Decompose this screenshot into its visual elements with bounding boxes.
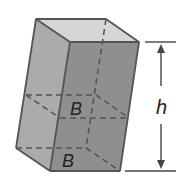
bottom-base-label: B — [62, 151, 74, 171]
arrow-down-icon — [157, 160, 165, 169]
height-label: h — [156, 96, 167, 118]
cross-section-base-label: B — [70, 99, 82, 119]
oblique-prism-diagram: h B B — [0, 0, 194, 178]
arrow-up-icon — [157, 44, 165, 53]
